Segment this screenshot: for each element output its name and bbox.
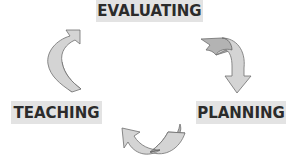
arrow-planning-to-teaching-icon xyxy=(122,124,185,154)
cycle-arrows xyxy=(0,0,294,168)
stage-label-teaching: TEACHING xyxy=(11,101,102,124)
arrow-teaching-to-evaluating-icon xyxy=(48,30,81,92)
arrow-evaluating-to-planning-icon xyxy=(201,38,251,93)
stage-label-evaluating: EVALUATING xyxy=(96,0,203,22)
stage-label-planning: PLANNING xyxy=(196,101,286,124)
